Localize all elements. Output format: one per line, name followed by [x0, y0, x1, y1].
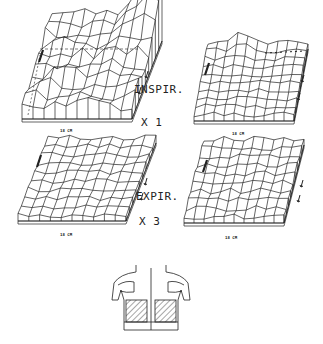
axis-marker-icon: [203, 160, 207, 172]
label-expiration: EXPIR.: [136, 190, 179, 203]
surface-plot-inspir-right: [194, 32, 308, 124]
arrow-icon: [300, 180, 303, 187]
arrow-icon: [297, 195, 300, 202]
axis-marker-icon: [205, 63, 209, 75]
label-inspiration: INSPIR.: [134, 83, 184, 96]
hatched-region-left: [126, 300, 147, 322]
axis-label-top-left: 18 CM: [60, 128, 72, 133]
surface-plot-expir-right: [184, 136, 304, 226]
hatched-region-right: [155, 300, 176, 322]
arrow-icon: [144, 178, 147, 185]
surface-plot-inspir-left: [22, 0, 162, 122]
dashed-reference-line: [265, 51, 305, 53]
torso-diagram: [112, 265, 190, 330]
axis-label-top-right: 18 CM: [232, 131, 244, 136]
label-inspiration-scale: X 1: [141, 116, 162, 129]
axis-label-bottom-right: 18 CM: [225, 235, 237, 240]
label-expiration-scale: X 3: [139, 215, 160, 228]
surface-plot-expir-left: [18, 135, 156, 224]
figure-canvas: [0, 0, 323, 344]
axis-label-bottom-left: 18 CM: [60, 232, 72, 237]
